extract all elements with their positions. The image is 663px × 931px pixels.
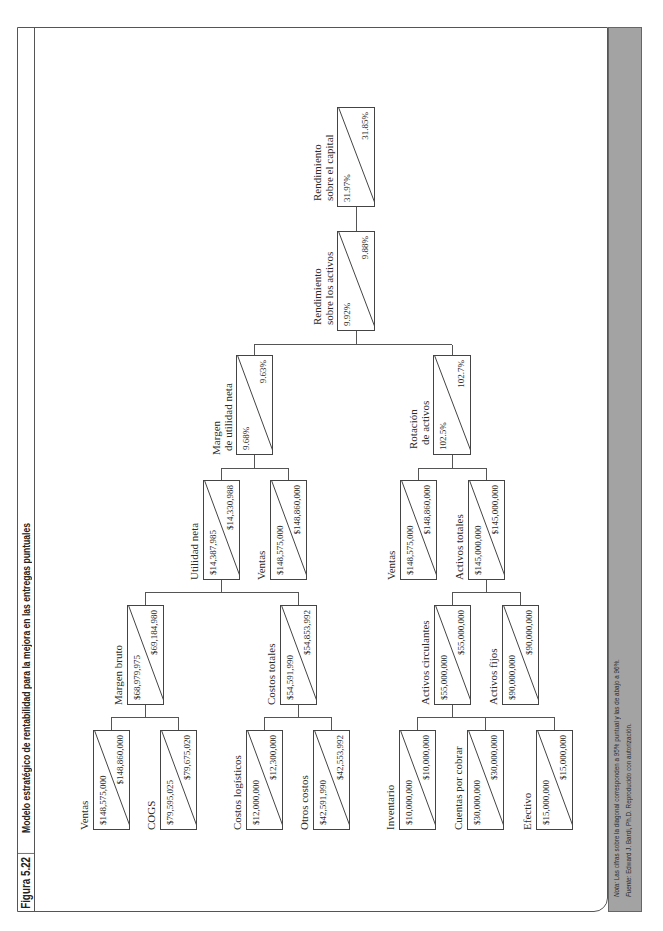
connector (264, 717, 332, 718)
total-assets-label: Activos totales (454, 514, 465, 580)
cogs-box: $79,595,025 $79,675,020 (160, 730, 197, 830)
net-income-box: $14,387,985 $14,330,988 (203, 480, 240, 580)
sales-b-value-95: $148,575,000 (405, 526, 415, 576)
rotated-page: Figura 5.22 Modelo estratégico de rentab… (0, 0, 663, 931)
net-income-value-96: $14,330,988 (225, 485, 235, 530)
note-label: Nota: (613, 882, 620, 897)
gross-margin-value-96: $69,184,980 (149, 610, 159, 655)
cogs-label: COGS (146, 801, 157, 830)
connector (288, 469, 289, 480)
total-costs-value-95: $54,591,990 (285, 655, 295, 700)
connector (254, 345, 255, 355)
inventory-box: $10,000,000 $10,000,000 (399, 730, 436, 830)
total-assets-value-96: $145,000,000 (490, 485, 500, 535)
connector (221, 469, 222, 480)
roa-label-line1: Rendimiento (312, 252, 323, 331)
fixed-assets-label: Activos fijos (488, 648, 499, 705)
total-costs-value-96: $54,853,992 (302, 610, 312, 655)
sales-c-value-96: $148,860,000 (115, 735, 125, 785)
cogs-value-96: $79,675,020 (182, 735, 192, 780)
connector (452, 455, 453, 469)
other-costs-box: $42,591,990 $42,553,992 (313, 730, 350, 830)
figure-title: Modelo estratégico de rentabilidad para … (17, 523, 35, 833)
figure-number: Figura 5.22 (17, 853, 35, 912)
roe-value-96: 31.85% (360, 112, 370, 140)
inventory-value-96: $10,000,000 (421, 735, 431, 780)
sales-c-label: Ventas (79, 801, 90, 830)
connector (452, 345, 453, 355)
net-margin-box: 9.68% 9.63% (236, 355, 273, 455)
roe-box: 31.97% 31.85% (337, 107, 375, 207)
current-assets-box: $55,000,000 $55,000,000 (434, 605, 471, 705)
connector (520, 593, 521, 605)
connector (554, 718, 555, 730)
source-label: Fuente: (625, 876, 632, 897)
connector (145, 592, 299, 593)
connector (145, 593, 146, 605)
roa-value-96: 9.88% (360, 236, 370, 259)
connector (356, 331, 357, 345)
receivables-value-95: $30,000,000 (472, 780, 482, 825)
net-margin-label-line2: de utilidad neta (223, 383, 234, 455)
roa-label: Rendimiento sobre los activos (312, 252, 335, 331)
connector (418, 469, 419, 480)
logistics-costs-box: $12,000,000 $12,300,000 (246, 730, 283, 830)
current-assets-label: Activos circulantes (420, 620, 431, 705)
roe-value-95: 31.97% (342, 174, 352, 202)
current-assets-value-96: $55,000,000 (456, 610, 466, 655)
connector (111, 717, 179, 718)
cash-value-95: $15,000,000 (541, 780, 551, 825)
other-costs-label: Otros costos (299, 775, 310, 830)
fixed-assets-box: $90,000,000 $90,000,000 (502, 605, 539, 705)
logistics-costs-value-96: $12,300,000 (268, 735, 278, 780)
sales-a-box: $148,575,000 $148,860,000 (270, 480, 307, 580)
inventory-label: Inventario (385, 785, 396, 830)
cash-label: Efectivo (522, 793, 533, 830)
sales-b-box: $148,575,000 $148,860,000 (400, 480, 437, 580)
gross-margin-label: Margen bruto (113, 645, 124, 705)
roa-label-line2: sobre los activos (324, 252, 335, 331)
net-margin-value-96: 9.63% (258, 360, 268, 383)
connector (486, 469, 487, 480)
cash-box: $15,000,000 $15,000,000 (536, 730, 573, 830)
note-text: Las cifras sobre la diagonal corresponde… (613, 659, 620, 882)
current-assets-value-95: $55,000,000 (439, 655, 449, 700)
connector (254, 455, 255, 469)
connector (254, 344, 452, 345)
gross-margin-value-95: $68,979,975 (132, 655, 142, 700)
fixed-assets-value-96: $90,000,000 (524, 610, 534, 655)
connector (264, 718, 265, 730)
total-costs-box: $54,591,990 $54,853,992 (280, 605, 317, 705)
inventory-value-95: $10,000,000 (404, 780, 414, 825)
connector (418, 468, 487, 469)
total-costs-label: Costos totales (266, 644, 277, 705)
connector (221, 468, 289, 469)
sales-c-box: $148,575,000 $148,860,000 (93, 730, 130, 830)
total-assets-value-95: $145,000,000 (473, 526, 483, 576)
asset-turnover-value-95: 102.5% (438, 422, 448, 450)
net-margin-value-95: 9.68% (241, 427, 251, 450)
connector (298, 593, 299, 605)
net-income-label: Utilidad neta (189, 523, 200, 580)
roe-label: Rendimiento sobre el capital (312, 134, 335, 207)
connector (178, 718, 179, 730)
sales-a-label: Ventas (256, 551, 267, 580)
roe-label-line1: Rendimiento (312, 134, 323, 207)
connector (485, 718, 486, 730)
asset-turnover-label-line2: de activos (420, 401, 431, 455)
roa-value-95: 9.92% (342, 303, 352, 326)
source-text: Edward J. Bardi, Ph.D. Reproducido con a… (625, 723, 632, 875)
cash-value-96: $15,000,000 (558, 735, 568, 780)
roe-label-line2: sobre el capital (324, 134, 335, 207)
receivables-box: $30,000,000 $30,000,000 (467, 730, 504, 830)
fixed-assets-value-95: $90,000,000 (507, 655, 517, 700)
receivables-label: Cuentas por cobrar (453, 746, 464, 830)
gross-margin-box: $68,979,975 $69,184,980 (127, 605, 164, 705)
other-costs-value-95: $42,591,990 (318, 780, 328, 825)
footer-source: Fuente: Edward J. Bardi, Ph.D. Reproduci… (625, 723, 632, 897)
connector (452, 593, 453, 605)
asset-turnover-value-96: 102.7% (456, 360, 466, 388)
cogs-value-95: $79,595,025 (165, 780, 175, 825)
sales-a-value-95: $148,575,000 (275, 526, 285, 576)
connector (356, 207, 357, 231)
